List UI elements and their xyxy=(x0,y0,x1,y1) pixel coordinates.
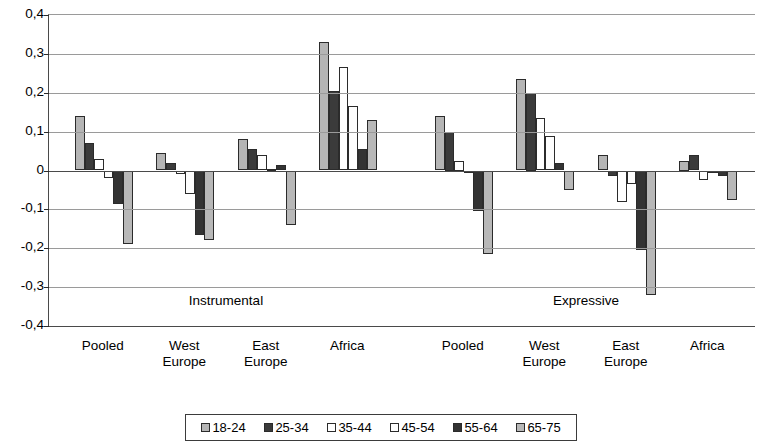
bar xyxy=(679,161,689,171)
y-axis-tick xyxy=(44,132,49,133)
bar xyxy=(185,171,195,194)
legend-item: 25-34 xyxy=(264,420,308,435)
y-axis-tick xyxy=(44,54,49,55)
bar xyxy=(248,149,258,170)
y-axis-tick xyxy=(44,15,49,16)
y-axis-tick xyxy=(44,326,49,327)
bar xyxy=(348,106,358,170)
bar xyxy=(94,159,104,171)
bar xyxy=(483,171,493,255)
gridline xyxy=(49,248,755,249)
chart-legend: 18-2425-3435-4445-5455-6465-75 xyxy=(185,414,577,441)
x-axis-group-label-line: West xyxy=(138,338,232,354)
legend-swatch-icon xyxy=(264,423,273,432)
y-axis-tick-label: 0,1 xyxy=(2,124,44,137)
y-axis-tick-label: -0,3 xyxy=(2,279,44,292)
bar xyxy=(113,171,123,204)
y-axis-tick xyxy=(44,287,49,288)
bar xyxy=(555,163,565,171)
legend-swatch-icon xyxy=(390,423,399,432)
bar xyxy=(339,67,349,170)
x-axis-group-label-line: Africa xyxy=(661,338,755,354)
bar xyxy=(545,136,555,171)
y-axis-tick xyxy=(44,171,49,172)
y-axis-tick-label: -0,1 xyxy=(2,201,44,214)
legend-item: 45-54 xyxy=(390,420,434,435)
x-axis-group-label: Africa xyxy=(661,338,755,354)
bar xyxy=(689,155,699,171)
gridline xyxy=(49,54,755,55)
bar xyxy=(454,161,464,171)
legend-item: 65-75 xyxy=(516,420,560,435)
legend-label: 45-54 xyxy=(401,420,434,435)
bar xyxy=(445,132,455,171)
bar xyxy=(257,155,267,171)
gridline xyxy=(49,209,755,210)
x-axis-group-label-line: Europe xyxy=(138,354,232,370)
bar xyxy=(435,116,445,170)
x-axis-group-label-line: Europe xyxy=(579,354,673,370)
bar xyxy=(564,171,574,190)
bar xyxy=(204,171,214,241)
bar xyxy=(319,42,329,170)
x-axis-group-label: WestEurope xyxy=(498,338,592,370)
y-axis-tick-label: 0,3 xyxy=(2,46,44,59)
plot-area: InstrumentalExpressive xyxy=(48,14,755,326)
bar xyxy=(617,171,627,202)
x-axis-group-label-line: Europe xyxy=(498,354,592,370)
bar xyxy=(166,163,176,171)
gridline xyxy=(49,287,755,288)
bar xyxy=(123,171,133,245)
x-axis-group-label-line: Europe xyxy=(219,354,313,370)
bar xyxy=(286,171,296,225)
x-axis-group-label-line: Pooled xyxy=(56,338,150,354)
bar xyxy=(358,149,368,170)
bar xyxy=(598,155,608,171)
legend-swatch-icon xyxy=(327,423,336,432)
x-axis-group-label: EastEurope xyxy=(219,338,313,370)
legend-item: 35-44 xyxy=(327,420,371,435)
x-axis-group-label: Pooled xyxy=(416,338,510,354)
x-axis-group-label-line: East xyxy=(579,338,673,354)
legend-swatch-icon xyxy=(516,423,525,432)
legend-label: 55-64 xyxy=(464,420,497,435)
legend-label: 18-24 xyxy=(212,420,245,435)
bar xyxy=(156,153,166,170)
gridline xyxy=(49,93,755,94)
bar-chart: 0,40,30,20,10-0,1-0,2-0,3-0,4 Instrument… xyxy=(0,0,760,444)
y-axis-tick-label: -0,4 xyxy=(2,318,44,331)
legend-label: 65-75 xyxy=(527,420,560,435)
zero-axis-line xyxy=(49,171,755,172)
x-axis-group-label: EastEurope xyxy=(579,338,673,370)
x-axis-group-label-line: Pooled xyxy=(416,338,510,354)
bar xyxy=(75,116,85,170)
y-axis-tick-label: 0,4 xyxy=(2,7,44,20)
bar xyxy=(367,120,377,171)
legend-label: 25-34 xyxy=(275,420,308,435)
y-axis: 0,40,30,20,10-0,1-0,2-0,3-0,4 xyxy=(0,0,44,444)
y-axis-tick-label: -0,2 xyxy=(2,240,44,253)
x-axis-group-label: WestEurope xyxy=(138,338,232,370)
legend-swatch-icon xyxy=(201,423,210,432)
legend-swatch-icon xyxy=(453,423,462,432)
y-axis-tick-label: 0,2 xyxy=(2,85,44,98)
panel-label-expressive: Expressive xyxy=(423,293,749,308)
x-axis-group-label-line: East xyxy=(219,338,313,354)
panel-label-instrumental: Instrumental xyxy=(63,293,389,308)
x-axis: PooledWestEuropeEastEuropeAfricaPooledWe… xyxy=(48,338,754,396)
bar xyxy=(646,171,656,295)
bar xyxy=(104,171,114,179)
bar xyxy=(536,118,546,170)
x-axis-group-label-line: West xyxy=(498,338,592,354)
y-axis-tick xyxy=(44,248,49,249)
bar xyxy=(627,171,637,185)
bar xyxy=(727,171,737,200)
legend-label: 35-44 xyxy=(338,420,371,435)
gridline xyxy=(49,326,755,327)
x-axis-group-label-line: Africa xyxy=(301,338,395,354)
legend-item: 55-64 xyxy=(453,420,497,435)
x-axis-group-label: Pooled xyxy=(56,338,150,354)
bar xyxy=(85,143,95,170)
bar xyxy=(195,171,205,235)
bar xyxy=(238,139,248,170)
